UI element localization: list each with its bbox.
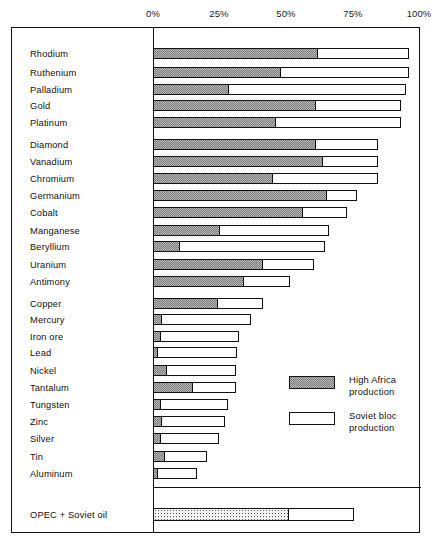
bar-africa-segment (154, 85, 229, 94)
bar-total-diamond (153, 139, 378, 150)
row-label-gold: Gold (30, 101, 50, 111)
bar-africa-segment (154, 140, 316, 149)
bar-total-antimony (153, 276, 290, 287)
bar-total-beryllium (153, 241, 325, 252)
row-label-tin: Tin (30, 452, 43, 462)
bar-africa-segment (154, 191, 327, 200)
row-label-uranium: Uranium (30, 260, 66, 270)
legend-label: High Africaproduction (349, 374, 396, 398)
bar-total-zinc (153, 416, 225, 427)
bar-africa-segment (154, 299, 218, 308)
legend-label-line2: production (349, 386, 396, 398)
legend-label-line1: High Africa (349, 374, 396, 386)
row-label-iron-ore: Iron ore (30, 332, 63, 342)
x-axis-tick-75: 75% (343, 8, 362, 19)
row-label-zinc: Zinc (30, 417, 48, 427)
bar-africa-segment (154, 118, 276, 127)
row-label-antimony: Antimony (30, 277, 70, 287)
bar-total-opec-soviet-oil (153, 508, 354, 521)
bar-total-copper (153, 298, 263, 309)
bar-africa-segment (154, 101, 316, 110)
row-label-chromium: Chromium (30, 174, 74, 184)
row-label-vanadium: Vanadium (30, 157, 72, 167)
row-label-diamond: Diamond (30, 140, 68, 150)
row-label-aluminum: Aluminum (30, 469, 73, 479)
row-label-beryllium: Beryllium (30, 242, 70, 252)
bar-total-gold (153, 100, 401, 111)
bar-total-silver (153, 433, 219, 444)
legend-label: Soviet blocproduction (349, 410, 397, 434)
bar-total-iron-ore (153, 331, 239, 342)
row-label-lead: Lead (30, 348, 51, 358)
bar-africa-segment (154, 400, 161, 409)
x-axis-tick-100: 100% (407, 8, 432, 19)
bar-africa-segment (154, 208, 303, 217)
bar-opec-segment (154, 509, 289, 520)
bar-total-ruthenium (153, 67, 409, 78)
row-label-opec-soviet-oil: OPEC + Soviet oil (30, 510, 107, 520)
legend-swatch-white-outline (289, 412, 335, 425)
row-label-palladium: Palladium (30, 85, 72, 95)
bar-africa-segment (154, 366, 167, 375)
x-axis-tick-labels: 0%25%50%75%100% (0, 8, 440, 24)
bar-total-tantalum (153, 382, 236, 393)
x-axis-tick-25: 25% (209, 8, 228, 19)
chart-page: 0%25%50%75%100% RhodiumRutheniumPalladiu… (0, 0, 440, 547)
bar-total-aluminum (153, 468, 197, 479)
row-label-tungsten: Tungsten (30, 400, 70, 410)
x-axis-tick-50: 50% (276, 8, 295, 19)
bar-africa-segment (154, 226, 220, 235)
legend-label-line1: Soviet bloc (349, 410, 397, 422)
bar-africa-segment (154, 49, 318, 58)
oil-section-divider (153, 487, 421, 488)
row-label-cobalt: Cobalt (30, 208, 58, 218)
bar-total-manganese (153, 225, 329, 236)
bar-africa-segment (154, 68, 281, 77)
bar-total-tin (153, 451, 207, 462)
bar-africa-segment (154, 434, 161, 443)
bar-total-germanium (153, 190, 357, 201)
row-label-nickel: Nickel (30, 366, 56, 376)
row-label-copper: Copper (30, 299, 61, 309)
x-axis-tick-0: 0% (146, 8, 160, 19)
row-label-ruthenium: Ruthenium (30, 68, 76, 78)
row-label-platinum: Platinum (30, 118, 67, 128)
chart-frame: RhodiumRutheniumPalladiumGoldPlatinumDia… (11, 27, 420, 533)
bar-total-mercury (153, 314, 251, 325)
bar-africa-segment (154, 242, 180, 251)
row-label-tantalum: Tantalum (30, 383, 69, 393)
bar-total-palladium (153, 84, 406, 95)
bars-container: RhodiumRutheniumPalladiumGoldPlatinumDia… (12, 28, 421, 534)
bar-africa-segment (154, 315, 162, 324)
bar-africa-segment (154, 383, 193, 392)
bar-total-rhodium (153, 48, 409, 59)
row-label-germanium: Germanium (30, 191, 80, 201)
bar-africa-segment (154, 348, 158, 357)
row-label-silver: Silver (30, 434, 54, 444)
row-label-mercury: Mercury (30, 315, 65, 325)
row-label-manganese: Manganese (30, 226, 80, 236)
bar-total-tungsten (153, 399, 228, 410)
bar-africa-segment (154, 277, 244, 286)
bar-total-chromium (153, 173, 378, 184)
bar-total-lead (153, 347, 237, 358)
bar-africa-segment (154, 174, 273, 183)
bar-total-nickel (153, 365, 236, 376)
bar-africa-segment (154, 332, 161, 341)
bar-total-cobalt (153, 207, 347, 218)
legend-swatch-checker-grey (289, 376, 335, 389)
bar-total-vanadium (153, 156, 378, 167)
bar-africa-segment (154, 157, 323, 166)
bar-africa-segment (154, 452, 165, 461)
bar-total-platinum (153, 117, 401, 128)
bar-africa-segment (154, 417, 162, 426)
bar-africa-segment (154, 260, 263, 269)
bar-africa-segment (154, 469, 158, 478)
row-label-rhodium: Rhodium (30, 49, 68, 59)
legend-label-line2: production (349, 422, 397, 434)
bar-total-uranium (153, 259, 314, 270)
